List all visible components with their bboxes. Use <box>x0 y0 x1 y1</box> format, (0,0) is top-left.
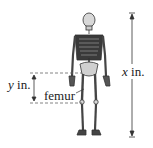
skeleton-diagram: y in. femur x in. <box>0 0 153 148</box>
femur-length-arrow <box>32 75 36 101</box>
femur-length-label: y in. <box>8 78 30 91</box>
height-label: x in. <box>122 64 144 79</box>
femur-label: femur <box>44 89 75 102</box>
skeleton-icon <box>69 13 110 135</box>
